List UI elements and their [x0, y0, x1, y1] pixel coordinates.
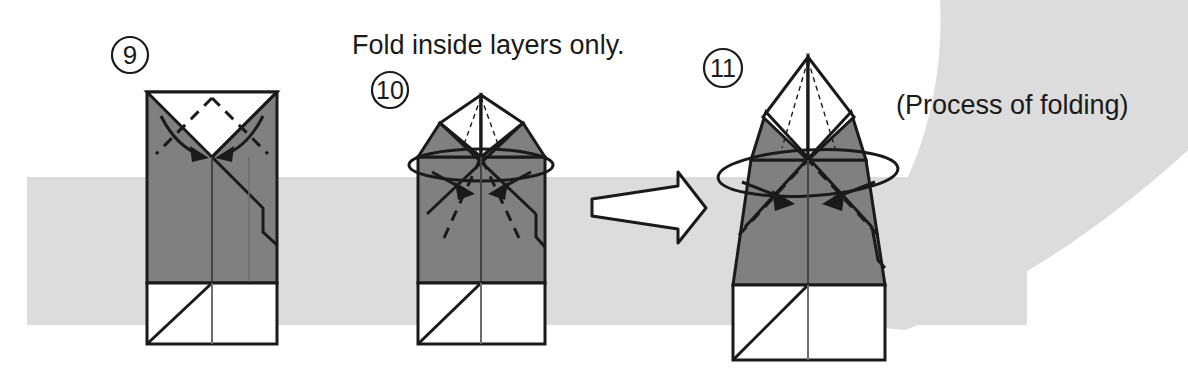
fold-instruction-caption: Fold inside layers only. — [352, 30, 625, 61]
step-9-figure — [147, 92, 277, 344]
step-10-badge: 10 — [372, 72, 408, 108]
step-9-badge: 9 — [112, 37, 148, 73]
step-11-figure — [717, 57, 899, 360]
step-10-figure — [409, 95, 553, 344]
step-11-badge: 11 — [704, 49, 742, 87]
step9-badge-label: 9 — [123, 40, 137, 70]
origami-diagram-page: 9 — [0, 0, 1188, 382]
step10-badge-label: 10 — [376, 76, 404, 104]
process-note-caption: (Process of folding) — [896, 90, 1129, 121]
step11-badge-label: 11 — [710, 54, 736, 82]
